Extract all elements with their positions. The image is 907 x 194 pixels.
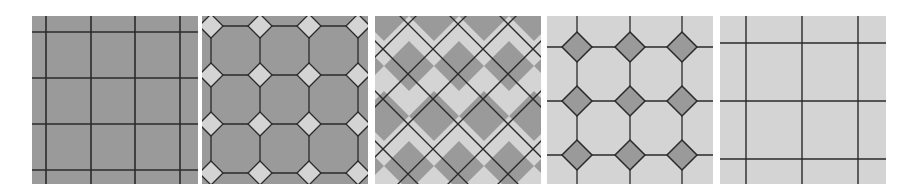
tile-pattern-octagon-dark bbox=[202, 16, 368, 184]
octagon-dark-graphic bbox=[202, 16, 368, 184]
tile-pattern-square-dark bbox=[32, 16, 198, 184]
square-grid-light-graphic bbox=[720, 16, 886, 184]
tile-pattern-square-light bbox=[720, 16, 886, 184]
tile-pattern-diagonal-checker bbox=[375, 16, 541, 184]
tile-pattern-octagon-light bbox=[547, 16, 713, 184]
diagonal-checker-graphic bbox=[375, 16, 541, 184]
octagon-light-graphic bbox=[547, 16, 713, 184]
square-grid-dark-graphic bbox=[32, 16, 198, 184]
